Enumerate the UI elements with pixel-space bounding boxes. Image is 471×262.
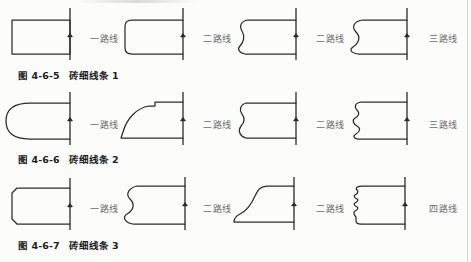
figure-double-wave-profile: 二路线 — [228, 88, 346, 150]
figure-caption-3: 图 4-6-7砖细线条 3 — [18, 238, 119, 252]
figure-multi-ripple-profile: 三路线 — [341, 88, 459, 150]
caption-title: 砖细线条 1 — [69, 70, 119, 81]
caption-number: 图 4-6-5 — [18, 70, 60, 81]
pass-label: 二路线 — [316, 202, 344, 215]
figure-row-2-figures: 一路线 二路线 二路线 — [0, 88, 471, 150]
pass-label: 二路线 — [203, 118, 231, 131]
figure-quarter-round-cove-profile: 二路线 — [115, 88, 233, 150]
caption-title: 砖细线条 3 — [69, 240, 119, 251]
caption-number: 图 4-6-6 — [18, 154, 60, 165]
figure-single-ogee-profile: 二路线 — [228, 2, 346, 64]
figure-ogee-ramp-profile: 二路线 — [228, 172, 346, 234]
pass-label: 一路线 — [90, 202, 118, 215]
figure-plain-rectangle-profile: 一路线 — [2, 2, 120, 64]
pass-label: 二路线 — [316, 32, 344, 45]
figure-row-1-figures: 一路线 二路线 二路线 — [0, 2, 471, 64]
figure-fine-ripple-profile: 四路线 — [341, 172, 459, 234]
pass-label: 四路线 — [429, 202, 457, 215]
pass-label: 一路线 — [90, 118, 118, 131]
figure-caption-1: 图 4-6-5砖细线条 1 — [18, 68, 119, 82]
figure-chamfered-rectangle-profile: 一路线 — [2, 172, 120, 234]
figure-row-2: 一路线 二路线 二路线 — [0, 88, 471, 172]
figure-caption-2: 图 4-6-6砖细线条 2 — [18, 152, 119, 166]
pass-label: 一路线 — [90, 32, 118, 45]
figure-deep-ogee-profile: 三路线 — [341, 2, 459, 64]
figure-row-3: 一路线 二路线 二路线 — [0, 172, 471, 262]
pass-label: 三路线 — [429, 32, 457, 45]
figure-rounded-corner-profile: 二路线 — [115, 2, 233, 64]
illustration-page: 一路线 二路线 二路线 — [0, 0, 471, 262]
figure-bulged-ogee-profile: 二路线 — [115, 172, 233, 234]
caption-number: 图 4-6-7 — [18, 240, 60, 251]
figure-row-3-figures: 一路线 二路线 二路线 — [0, 172, 471, 234]
figure-row-1: 一路线 二路线 二路线 — [0, 2, 471, 88]
pass-label: 三路线 — [429, 118, 457, 131]
caption-title: 砖细线条 2 — [69, 154, 119, 165]
figure-bullnose-profile: 一路线 — [2, 88, 120, 150]
pass-label: 二路线 — [316, 118, 344, 131]
pass-label: 二路线 — [203, 32, 231, 45]
pass-label: 二路线 — [203, 202, 231, 215]
